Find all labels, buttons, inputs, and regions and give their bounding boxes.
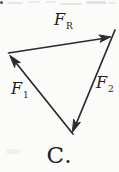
answer-choice-label: C. xyxy=(0,143,119,168)
force-label-fr-symbol: F xyxy=(54,10,65,29)
force-label-f2: F2 xyxy=(96,75,114,94)
force-label-f1-symbol: F xyxy=(11,79,22,98)
vector-fr-line xyxy=(9,39,104,54)
force-label-f1-subscript: 1 xyxy=(23,90,29,100)
force-label-f2-symbol: F xyxy=(96,73,107,92)
force-label-fr-subscript: R xyxy=(66,21,73,31)
force-label-f2-subscript: 2 xyxy=(108,84,114,94)
force-label-fr: FR xyxy=(54,12,73,31)
force-label-f1: F1 xyxy=(11,81,29,100)
force-diagram-panel: FR F1 F2 C. xyxy=(0,0,119,172)
